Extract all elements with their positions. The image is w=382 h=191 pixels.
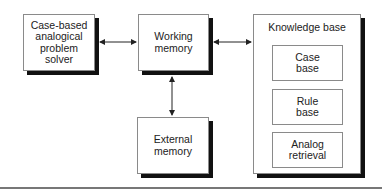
knowledge-base-title: Knowledge base xyxy=(254,22,360,34)
rule-base-label: Rule base xyxy=(296,96,319,119)
analog-retrieval-box: Analog retrieval xyxy=(272,132,343,168)
case-based-solver-box: Case-based analogical problem solver xyxy=(23,14,95,71)
working-memory-label: Working memory xyxy=(154,31,192,54)
knowledge-base-box: Knowledge base Case base Rule base Analo… xyxy=(253,14,361,174)
analog-retrieval-label: Analog retrieval xyxy=(289,139,326,162)
bottom-divider xyxy=(0,187,382,189)
rule-base-box: Rule base xyxy=(272,89,343,125)
working-memory-box: Working memory xyxy=(138,14,209,71)
external-memory-box: External memory xyxy=(137,117,209,174)
case-based-solver-label: Case-based analogical problem solver xyxy=(31,20,88,66)
case-base-label: Case base xyxy=(295,52,320,75)
case-base-box: Case base xyxy=(272,45,343,81)
external-memory-label: External memory xyxy=(154,134,193,157)
